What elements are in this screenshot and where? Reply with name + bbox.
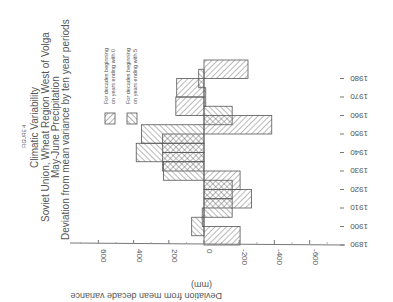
legend-0-line-1: For decades beginning [103,48,109,104]
value-tick-label: 200 [170,249,179,263]
bar-1955 [204,106,232,125]
year-tick-label: 1890 [350,240,368,249]
value-tick-label: -400 [275,249,284,266]
year-axis-ticks: 1890190019101920193019401950196019701980 [340,74,368,250]
year-tick-label: 1980 [350,74,368,83]
bar-1960 [176,97,204,116]
legend-5-line-1: For decades beginning [125,48,131,104]
value-tick-label: 0 [205,249,214,254]
bar-1890 [204,227,240,246]
bar-1980 [204,60,248,79]
title-line-4: Deviation from mean variance by ten year… [60,19,71,240]
value-tick-label: -600 [311,249,320,266]
chart: 6004002000-200-400-600 18901900191019201… [0,0,393,302]
value-tick-label: 600 [99,249,108,263]
legend-5-line-2: on years ending with 5 [132,49,138,104]
year-tick-label: 1900 [350,222,368,231]
bar-1975 [199,69,204,88]
title-line-1: Climatic Variability [29,87,40,168]
bar-1935 [136,143,204,162]
year-tick-label: 1960 [350,111,368,120]
year-tick-label: 1920 [350,185,368,194]
year-tick-label: 1910 [350,203,368,212]
value-tick-label: 400 [135,249,144,263]
value-tick-label: -200 [240,249,249,266]
year-tick-label: 1970 [350,92,368,101]
legend-swatch-0 [105,113,115,124]
year-tick-label: 1950 [350,129,368,138]
legend-0-line-2: on years ending with 0 [110,49,116,104]
year-tick-label: 1940 [350,148,368,157]
bar-1925 [164,162,204,181]
figure-label: FIGURE 4 [21,125,27,148]
bar-1945 [142,125,204,144]
legend-swatch-5 [127,113,137,124]
year-tick-label: 1930 [350,166,368,175]
bar-1905 [204,199,232,218]
bar-1895 [192,217,204,236]
value-axis-label: Deviation from mean decade variance [70,291,222,301]
value-axis-unit: (mm) [191,280,212,290]
bar-1965 [204,88,206,107]
bar-1915 [204,180,232,199]
